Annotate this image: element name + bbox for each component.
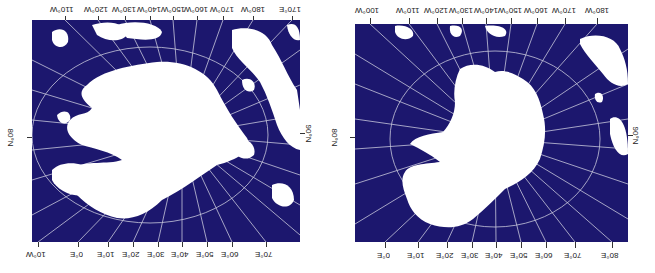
right-map-top-label: 100°W bbox=[355, 6, 379, 15]
tick bbox=[253, 16, 254, 20]
tick bbox=[182, 242, 183, 247]
right-map-bottom-label: 70°E bbox=[564, 251, 581, 260]
right-map-bottom-label: 30°E bbox=[461, 251, 478, 260]
left-map-bottom-label: 50°E bbox=[196, 250, 213, 259]
tick bbox=[78, 242, 79, 247]
tick bbox=[472, 242, 473, 248]
right-map-top-label: 170°W bbox=[552, 6, 576, 15]
right-map-bottom-label: 60°E bbox=[535, 251, 552, 260]
right-map-top-label: 140°W bbox=[474, 6, 498, 15]
tick bbox=[38, 242, 39, 247]
left-map-top-label: 140°W bbox=[137, 5, 161, 14]
right-map-bottom-label: 20°E bbox=[436, 251, 453, 260]
right-map-bottom-label: 0°E bbox=[377, 251, 390, 260]
tick bbox=[385, 242, 386, 248]
tick bbox=[150, 16, 151, 20]
right-map-left-label: 80°N bbox=[330, 129, 339, 147]
tick bbox=[125, 16, 126, 20]
right-map-top-label: 110°W bbox=[396, 6, 420, 15]
tick bbox=[597, 18, 598, 24]
tick bbox=[197, 16, 198, 20]
right-map-top-label: 120°W bbox=[424, 6, 448, 15]
left-map-bottom-label: 10°W bbox=[26, 250, 46, 259]
right-map-graphic bbox=[355, 24, 628, 242]
right-map-panel bbox=[355, 24, 628, 242]
left-map-bottom-label: 70°E bbox=[255, 250, 272, 259]
right-map-bottom-label: 10°E bbox=[407, 251, 424, 260]
left-map-graphic bbox=[32, 20, 300, 242]
tick bbox=[370, 18, 371, 24]
tick bbox=[418, 242, 419, 248]
tick bbox=[350, 137, 355, 138]
left-map-bottom-label: 10°E bbox=[97, 250, 114, 259]
tick bbox=[462, 18, 463, 24]
tick bbox=[496, 242, 497, 248]
tick bbox=[612, 242, 613, 248]
left-map-top-label: 110°W bbox=[50, 5, 74, 14]
tick bbox=[565, 18, 566, 24]
tick bbox=[409, 18, 410, 24]
left-map-bottom-label: 20°E bbox=[122, 250, 139, 259]
left-map-top-label: 170°E bbox=[279, 5, 301, 14]
left-map-panel bbox=[32, 20, 300, 242]
tick bbox=[133, 242, 134, 247]
tick bbox=[223, 16, 224, 20]
left-map-top-label: 150°W bbox=[161, 5, 185, 14]
left-map-top-label: 120°W bbox=[84, 5, 108, 14]
left-map-top-label: 130°W bbox=[112, 5, 136, 14]
right-map-bottom-label: 40°E bbox=[485, 251, 502, 260]
right-map-right-label: 90°N bbox=[631, 127, 640, 145]
tick bbox=[537, 18, 538, 24]
left-map-top-label: 170°W bbox=[210, 5, 234, 14]
tick bbox=[158, 242, 159, 247]
tick bbox=[575, 242, 576, 248]
left-map-right-label: 90°N bbox=[304, 125, 313, 143]
tick bbox=[292, 16, 293, 20]
left-map-bottom-label: 30°E bbox=[147, 250, 164, 259]
tick bbox=[447, 242, 448, 248]
right-map-top-label: 180°W bbox=[585, 6, 609, 15]
tick bbox=[437, 18, 438, 24]
left-map-bottom-label: 60°E bbox=[221, 250, 238, 259]
tick bbox=[173, 16, 174, 20]
left-map-top-label: 160°W bbox=[184, 5, 208, 14]
right-map-top-label: 160°W bbox=[524, 6, 548, 15]
tick bbox=[98, 16, 99, 20]
tick bbox=[232, 242, 233, 247]
tick bbox=[486, 18, 487, 24]
tick bbox=[108, 242, 109, 247]
tick bbox=[511, 18, 512, 24]
tick bbox=[27, 137, 32, 138]
tick bbox=[266, 242, 267, 247]
left-map-left-label: 80°N bbox=[6, 129, 15, 147]
left-map-top-label: 180°W bbox=[241, 5, 265, 14]
right-map-bottom-label: 80°E bbox=[601, 251, 618, 260]
left-map-bottom-label: 40°E bbox=[171, 250, 188, 259]
right-map-top-label: 130°W bbox=[449, 6, 473, 15]
left-map-bottom-label: 0°E bbox=[70, 250, 83, 259]
tick bbox=[546, 242, 547, 248]
tick bbox=[521, 242, 522, 248]
right-map-bottom-label: 50°E bbox=[510, 251, 527, 260]
tick bbox=[65, 16, 66, 20]
right-map-top-label: 150°W bbox=[498, 6, 522, 15]
tick bbox=[207, 242, 208, 247]
